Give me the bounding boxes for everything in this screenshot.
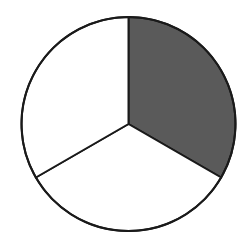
pie-chart (0, 0, 251, 239)
